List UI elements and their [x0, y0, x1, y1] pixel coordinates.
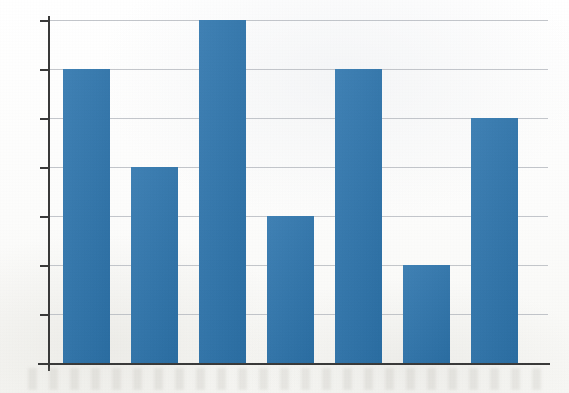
bar: [63, 69, 110, 363]
bar: [335, 69, 382, 363]
bar: [131, 167, 178, 363]
y-axis-tick: [40, 265, 49, 267]
gridline: [48, 69, 548, 70]
plot-area: [0, 0, 569, 393]
bar-chart-figure: [0, 0, 569, 393]
y-axis-tick: [40, 363, 49, 365]
y-axis-tick: [40, 314, 49, 316]
x-axis-line: [38, 363, 550, 365]
y-axis-tick: [40, 118, 49, 120]
y-axis-tick: [40, 167, 49, 169]
y-axis-tick: [40, 20, 49, 22]
y-axis-tick: [40, 216, 49, 218]
gridline: [48, 20, 548, 21]
bar: [267, 216, 314, 363]
bar: [199, 20, 246, 363]
bar: [471, 118, 518, 363]
bar: [403, 265, 450, 363]
y-axis-tick: [40, 69, 49, 71]
